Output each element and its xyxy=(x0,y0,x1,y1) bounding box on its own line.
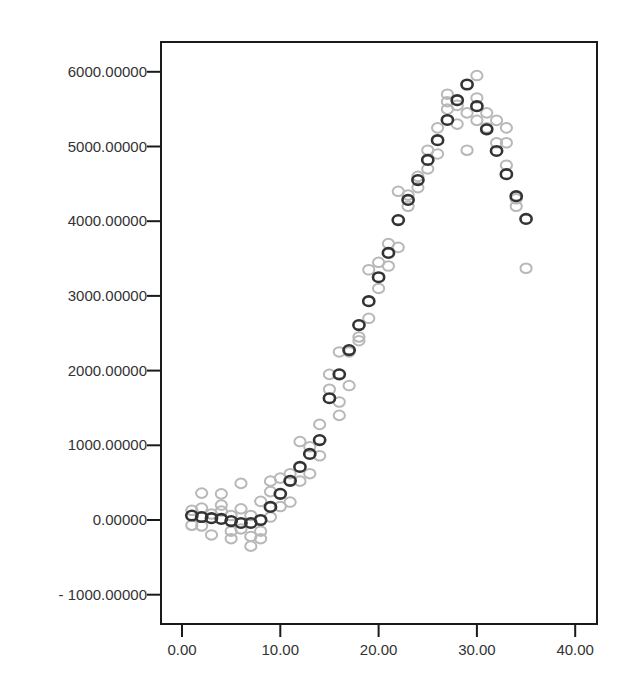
x-tick-label: 40.00 xyxy=(556,641,594,658)
observed-data-point xyxy=(383,261,394,271)
x-tick-label: 10.00 xyxy=(262,641,300,658)
observed-data-point xyxy=(304,469,315,479)
fitted-data-point xyxy=(373,272,384,282)
observed-data-point xyxy=(344,381,355,391)
observed-data-point xyxy=(363,265,374,275)
x-tick-label: 20.00 xyxy=(360,641,398,658)
observed-data-point xyxy=(491,116,502,126)
x-axis: 0.0010.0020.0030.0040.00 xyxy=(167,624,594,658)
series-observed-points xyxy=(186,71,531,551)
x-tick-label: 0.00 xyxy=(167,641,196,658)
observed-data-point xyxy=(461,108,472,118)
y-tick-label: 2000.00000 xyxy=(68,362,147,379)
y-axis: 6000.000005000.000004000.000003000.00000… xyxy=(59,63,161,603)
observed-data-point xyxy=(334,411,345,421)
observed-data-point xyxy=(235,504,246,514)
fitted-data-point xyxy=(383,248,394,258)
y-tick-label: 6000.00000 xyxy=(68,63,147,80)
fitted-data-point xyxy=(363,296,374,306)
observed-data-point xyxy=(363,314,374,324)
y-tick-label: 1000.00000 xyxy=(68,436,147,453)
observed-data-point xyxy=(432,123,443,133)
observed-data-point xyxy=(481,108,492,118)
y-tick-label: 3000.00000 xyxy=(68,287,147,304)
fitted-data-point xyxy=(442,115,453,125)
observed-data-point xyxy=(501,123,512,133)
fitted-data-point xyxy=(432,135,443,145)
observed-data-point xyxy=(314,420,325,430)
observed-data-point xyxy=(373,284,384,294)
y-tick-label: 0.00000 xyxy=(93,511,147,528)
observed-data-point xyxy=(461,145,472,155)
fitted-data-point xyxy=(353,320,364,330)
observed-data-point xyxy=(245,541,256,551)
y-tick-label: 4000.00000 xyxy=(68,212,147,229)
observed-data-point xyxy=(196,488,207,498)
observed-data-point xyxy=(216,489,227,499)
observed-data-point xyxy=(471,116,482,126)
observed-data-point xyxy=(471,71,482,81)
observed-data-point xyxy=(235,479,246,489)
x-tick-label: 30.00 xyxy=(458,641,496,658)
fitted-data-point xyxy=(520,214,531,224)
scatter-chart: 6000.000005000.000004000.000003000.00000… xyxy=(0,0,640,694)
observed-data-point xyxy=(520,263,531,273)
series-fitted-points xyxy=(186,80,531,528)
observed-data-point xyxy=(285,497,296,507)
fitted-data-point xyxy=(393,215,404,225)
fitted-data-point xyxy=(294,462,305,472)
fitted-data-point xyxy=(461,80,472,90)
y-tick-label: 5000.00000 xyxy=(68,138,147,155)
fitted-data-point xyxy=(314,435,325,445)
y-tick-label: - 1000.00000 xyxy=(59,586,147,603)
observed-data-point xyxy=(206,530,217,540)
